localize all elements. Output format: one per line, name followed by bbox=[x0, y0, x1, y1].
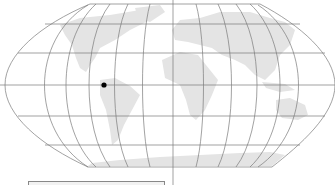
inset-map-strip bbox=[28, 181, 165, 185]
indonesia bbox=[262, 82, 295, 92]
location-marker[interactable] bbox=[101, 82, 106, 87]
antarctica bbox=[88, 152, 285, 166]
africa bbox=[162, 52, 218, 120]
australia bbox=[276, 98, 308, 120]
world-map bbox=[0, 0, 335, 185]
south-america bbox=[100, 78, 140, 145]
